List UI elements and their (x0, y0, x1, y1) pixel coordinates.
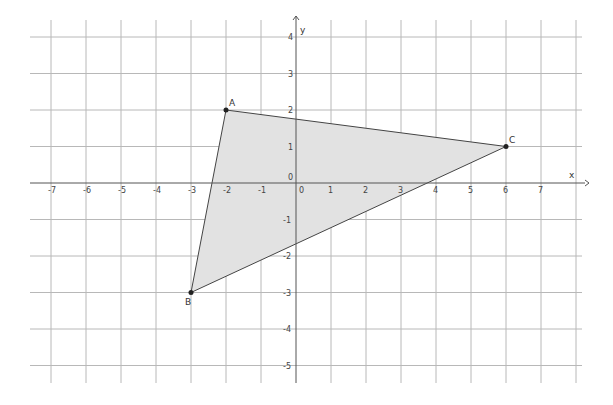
y-tick-label: 3 (288, 70, 293, 79)
x-tick-label: -5 (118, 186, 126, 195)
point-c (504, 144, 509, 149)
y-tick-label: 4 (288, 33, 293, 42)
x-axis-label: x (569, 170, 575, 180)
point-label-a: A (229, 98, 236, 108)
x-tick-label: 3 (398, 186, 403, 195)
x-tick-label: 7 (538, 186, 543, 195)
point-a (224, 108, 229, 113)
x-tick-label: -2 (223, 186, 231, 195)
coordinate-plane: xy -7-6-5-4-3-2-10123456743210-1-2-3-4-5… (0, 0, 613, 405)
y-tick-label: 2 (288, 106, 293, 115)
x-tick-label: 0 (299, 186, 304, 195)
y-tick-label: 1 (288, 143, 293, 152)
y-tick-label: 0 (288, 173, 293, 182)
x-tick-label: -1 (258, 186, 266, 195)
point-label-b: B (185, 297, 191, 307)
y-tick-label: -5 (283, 362, 291, 371)
point-label-c: C (509, 135, 515, 145)
x-tick-label: -7 (48, 186, 56, 195)
x-tick-label: 6 (503, 186, 508, 195)
triangle-abc (191, 110, 506, 293)
x-tick-label: -4 (153, 186, 161, 195)
y-axis-label: y (300, 25, 306, 35)
x-tick-label: -6 (83, 186, 91, 195)
x-tick-label: -3 (188, 186, 196, 195)
x-tick-label: 1 (328, 186, 333, 195)
y-tick-label: -3 (283, 289, 291, 298)
y-tick-label: -4 (283, 325, 291, 334)
x-tick-label: 2 (363, 186, 368, 195)
x-axis-arrow-icon (585, 180, 589, 186)
y-tick-label: -1 (283, 216, 291, 225)
x-tick-label: 5 (468, 186, 473, 195)
y-tick-label: -2 (283, 252, 291, 261)
point-b (189, 290, 194, 295)
x-tick-label: 4 (433, 186, 438, 195)
